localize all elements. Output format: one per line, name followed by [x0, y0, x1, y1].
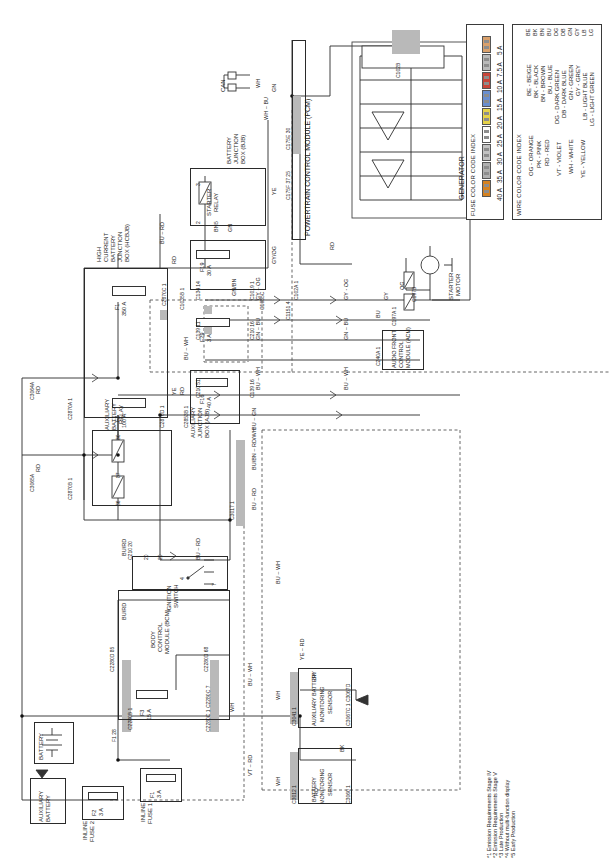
wire-bu-rd-2: BU ~ RD — [252, 488, 258, 510]
wire-bu-acm: BU — [376, 310, 382, 318]
wire-bk-2: BK — [340, 745, 346, 752]
wire-bu-can: WH ~ BU — [264, 97, 270, 120]
fuse-inline2-id: F2 — [92, 810, 98, 816]
connector-c1151: C1151 4 — [286, 301, 291, 320]
label-can: CAN — [220, 79, 226, 92]
label-ajb-l2: JUNCTION — [197, 408, 203, 438]
wire-bu-wh-3: BU ~ WH — [184, 337, 190, 360]
fuse-inline2-rating: 3 A — [99, 808, 105, 816]
fuse-rating-5a: 5 A — [497, 46, 504, 55]
wire-bn-relay: BN — [214, 224, 220, 232]
wire-gy-starter: GY — [384, 292, 390, 300]
wire-bu-wh-1: BU ~ WH — [256, 367, 262, 390]
wire-gy-og-3: GY - OG — [344, 279, 350, 300]
wire-entry-vt: VT - VIOLET — [556, 142, 562, 176]
label-hcbjb-l2: CURRENT — [103, 233, 109, 262]
wire-code-lb: LB — [582, 29, 588, 36]
label-aux-bms-l3: SENSOR — [328, 691, 334, 714]
connector-c3017: C3017 1 — [230, 501, 235, 520]
wire-wh-2: WH — [276, 777, 282, 786]
wire-bu-rd-1: BU ~ RD — [160, 222, 166, 244]
fuse-f29-body — [196, 318, 230, 327]
wire-bu-rd-ign: BU/RD — [122, 539, 128, 556]
fuse-chip-40a — [482, 180, 491, 197]
fuse-chip-20a — [482, 108, 491, 125]
label-ajb-l3: BOX (AJB) — [204, 409, 210, 438]
label-bjb-line2: JUNCTION — [233, 134, 239, 164]
fuse-inline1-id: F1 — [150, 792, 156, 798]
wire-rd-bottom: RD — [314, 788, 320, 796]
wire-code-dg: DG — [554, 28, 560, 36]
wire-gn-bn: GN/BN — [232, 279, 238, 296]
fuse-chip-7-5a — [482, 54, 491, 71]
wire-entry-bu: BU - BLUE — [547, 65, 553, 94]
label-pcm: POWERTRAIN CONTROL MODULE (PCM) — [304, 99, 311, 236]
wire-bubn-rdwh: BU/BN ~ RD/WH — [252, 428, 258, 470]
label-bms-l2: MONITORING — [320, 768, 326, 804]
wire-code-lg: LG — [589, 29, 595, 36]
label-ajb-l1: AUXILIARY — [190, 407, 196, 438]
wire-entry-be: BE - BEIGE — [526, 64, 532, 96]
label-bjb-line3: BOX (BJB) — [240, 135, 246, 164]
connector-c139: C139 11 — [196, 321, 201, 340]
fuse-chip-30a — [482, 144, 491, 161]
legend-fuse-title: FUSE COLOR CODE INDEX — [470, 134, 476, 216]
fuse-rating-7-5a: 7.5 A — [497, 62, 504, 77]
wire-gn-bu: GN ~ BU — [256, 318, 262, 340]
fuse-chip-25a — [482, 126, 491, 143]
label-starter-relay-l2: RELAY — [213, 193, 219, 212]
wire-rd-left-2: RD — [36, 464, 42, 472]
wire-entry-gy: GY - GREY — [575, 65, 581, 96]
wire-ye-rd: YE ~ RD — [300, 638, 306, 660]
fuse-f19-id: F19 — [200, 263, 206, 272]
connector-c210-20: C210 20 — [128, 541, 133, 560]
wire-entry-lb: LB - LIGHT BLUE — [582, 72, 588, 120]
wire-wh-3: WH — [230, 703, 236, 712]
wire-entry-bn: BN - BROWN — [540, 65, 546, 102]
label-aux-relay-l2: BATTERY — [111, 403, 117, 430]
fuse-inline1-body — [146, 774, 176, 782]
connector-c2870b: C2870B 1 — [68, 478, 73, 500]
connector-c2870d: C2870D 1 — [160, 405, 165, 428]
wire-code-bu: BU — [547, 28, 553, 36]
pin-ign-20b: 20 — [158, 554, 163, 560]
pin-ign-4: 4 — [180, 577, 185, 580]
module-box-bcm[interactable] — [118, 590, 230, 720]
connector-c3012: C3012 1 — [292, 785, 297, 804]
wire-entry-dg: DG - DARK GREEN — [554, 70, 560, 124]
label-bcm-l1: BODY — [150, 631, 156, 648]
fuse-f19-rating: 30 A — [207, 265, 213, 276]
label-inline-fuse-1-l2: FUSE 1 — [147, 803, 153, 824]
wire-gy-og: GY/OG — [272, 246, 278, 264]
wire-entry-db: DB - DARK BLUE — [561, 70, 567, 118]
fuse-f29-rating: 3 A — [207, 334, 213, 342]
connector-c102a: C102A 1 — [294, 281, 299, 300]
label-battery: BATTERY — [38, 733, 44, 760]
connector-c240a: C240A 1 — [376, 347, 381, 366]
wire-ye-bjb: YE — [272, 188, 278, 195]
fuse-rating-20a: 20 A — [497, 116, 504, 129]
module-box-bjb[interactable] — [190, 168, 266, 226]
module-box-aux-battery-relay[interactable] — [92, 430, 172, 506]
wire-wh-can: WH — [256, 79, 262, 88]
connector-c210-51: C210 51 — [196, 379, 201, 398]
connector-c197b: C197B — [412, 287, 417, 302]
wire-bu-wh-4: BU ~ WH — [276, 561, 282, 584]
fuse-inline1-rating: 3 A — [157, 790, 163, 798]
wire-bu-wh-2: BU ~ WH — [344, 367, 350, 390]
label-acm-l2: CONTROL — [399, 341, 405, 368]
connector-c1035b: C1035B 1 — [180, 288, 185, 310]
pin-bjb-5: 5 — [214, 221, 219, 224]
wire-entry-lg: LG - LIGHT GREEN — [589, 72, 595, 126]
fuse-rating-25a: 25 A — [497, 134, 504, 147]
wire-entry-bk: BK - BLACK — [533, 65, 539, 98]
fuse-rating-30a: 30 A — [497, 152, 504, 165]
fuse-f1-350-id: F1 — [115, 304, 121, 310]
label-acm-l3: MODULE (ACM) — [406, 327, 412, 368]
connector-c2870a: C2870A 1 — [68, 398, 73, 420]
label-generator: GENERATOR — [458, 156, 465, 200]
connector-band-c2870b — [236, 440, 245, 526]
wire-wh-1: WH — [276, 691, 282, 700]
connector-c2280d: C2280D 85 — [110, 647, 115, 672]
label-hcbjb-l1: HIGH — [96, 247, 102, 262]
